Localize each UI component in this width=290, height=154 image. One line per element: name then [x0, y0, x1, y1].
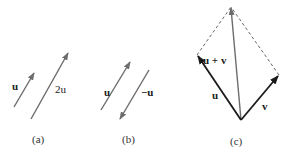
label-u: u [12, 80, 18, 92]
panel-b: u −u (b) [101, 62, 153, 146]
caption-a: (a) [32, 133, 45, 146]
label-2u: 2u [55, 83, 67, 95]
label-u-plus-v: u + v [203, 54, 227, 66]
panel-c: u + v u v (c) [197, 7, 279, 148]
vector-v-arrow [241, 76, 278, 120]
label-neg-u: −u [141, 86, 153, 98]
caption-b: (b) [122, 133, 135, 146]
label-v: v [262, 100, 268, 112]
panel-a: u 2u (a) [12, 53, 68, 146]
dashed-parallel-line-u [231, 7, 279, 75]
vector-sum-arrow [231, 8, 241, 120]
label-u: u [212, 89, 218, 101]
dashed-parallel-line-v [197, 7, 231, 55]
caption-c: (c) [230, 135, 243, 148]
vector-diagram: u 2u (a) u −u (b) u + v u v (c) [0, 0, 290, 154]
label-u: u [104, 86, 110, 98]
